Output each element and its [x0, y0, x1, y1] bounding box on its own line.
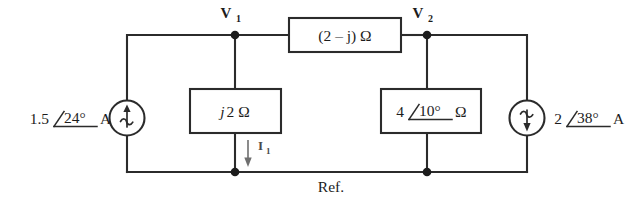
source-right-magnitude: 2: [554, 110, 562, 127]
circuit-schematic-canvas: V 1 V 2 (2 – j) Ω j2 Ω 4 10° Ω 1.5 24° A…: [0, 0, 640, 203]
node-dot-v1: [231, 31, 240, 40]
circuit-diagram: V 1 V 2 (2 – j) Ω j2 Ω 4 10° Ω 1.5 24° A…: [0, 0, 640, 203]
source-left-angle-slash: [54, 112, 64, 127]
source-left-magnitude: 1.5: [30, 110, 50, 127]
reference-label: Ref.: [318, 178, 344, 195]
current-label-i1-subscript: 1: [266, 146, 271, 156]
node-dot-v2: [423, 31, 432, 40]
source-right-angle: 38°: [577, 109, 599, 126]
impedance-top-value: (2 – j) Ω: [318, 27, 371, 45]
impedance-right-angle: 10°: [419, 102, 441, 119]
impedance-right-unit: Ω: [455, 103, 467, 120]
source-right-angle-slash: [567, 112, 577, 127]
node-label-v2: V: [413, 5, 424, 21]
node-dot-ref-left: [231, 168, 240, 177]
impedance-left-value: j2 Ω: [218, 103, 249, 120]
source-left-unit: A: [100, 110, 112, 127]
impedance-right-magnitude: 4: [396, 103, 404, 120]
node-label-v2-subscript: 2: [428, 13, 433, 24]
current-label-i1: I: [258, 138, 263, 153]
current-i1-arrow-head: [244, 158, 251, 168]
node-dot-ref-right: [423, 168, 432, 177]
node-label-v1-subscript: 1: [236, 13, 241, 24]
source-right-unit: A: [613, 110, 625, 127]
impedance-left-value-rest: 2 Ω: [227, 103, 250, 120]
source-left-angle: 24°: [64, 109, 86, 126]
node-label-v1: V: [221, 5, 232, 21]
